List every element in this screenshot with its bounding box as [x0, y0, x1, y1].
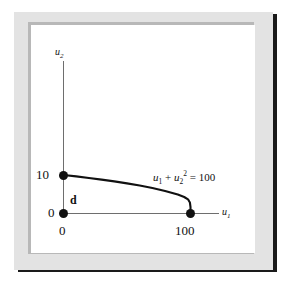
x-tick-label-0: 0 — [59, 224, 66, 237]
point-marker-y-intercept — [59, 171, 68, 180]
y-axis-label-subscript: 2 — [60, 52, 64, 60]
y-tick-label-10: 10 — [36, 168, 49, 181]
y-axis-line — [63, 61, 64, 214]
point-marker-origin — [59, 209, 68, 218]
equation-rhs-value: 100 — [199, 171, 216, 183]
x-axis-line — [63, 213, 219, 214]
point-d-label: d — [70, 194, 77, 206]
frame-drop-shadow-right — [273, 14, 277, 272]
curve-equation-label: u1 + u22 = 100 — [153, 170, 215, 185]
equation-term2-subscript: 2 — [179, 177, 183, 186]
figure-screenshot: u2 u1 10 0 0 100 d u1 + u22 = 100 — [0, 0, 284, 286]
y-axis-label: u2 — [55, 47, 64, 60]
y-tick-label-0: 0 — [48, 206, 55, 219]
x-tick-label-100: 100 — [175, 224, 195, 237]
x-axis-label-subscript: 1 — [227, 212, 231, 220]
point-marker-x-intercept — [186, 209, 195, 218]
x-axis-label: u1 — [222, 207, 231, 220]
